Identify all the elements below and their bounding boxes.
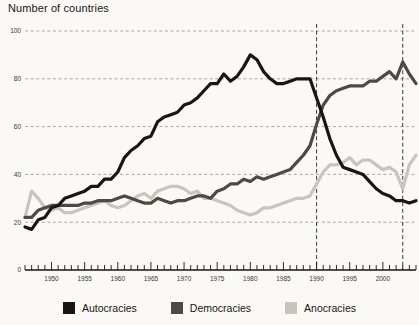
svg-text:80: 80 <box>14 75 22 82</box>
svg-text:60: 60 <box>14 123 22 130</box>
chart-legend: Autocracies Democracies Anocracies <box>0 297 419 319</box>
y-axis-tick-labels: 020406080100 <box>10 27 21 273</box>
svg-text:1955: 1955 <box>77 275 92 282</box>
svg-text:1990: 1990 <box>309 275 324 282</box>
svg-text:100: 100 <box>10 27 21 34</box>
x-axis-tick-labels: 1950195519601965197019751980198519901995… <box>44 275 390 282</box>
svg-text:1950: 1950 <box>44 275 59 282</box>
legend-item-anocracies[interactable]: Anocracies <box>285 302 356 314</box>
svg-text:1970: 1970 <box>177 275 192 282</box>
svg-text:1975: 1975 <box>210 275 225 282</box>
svg-text:0: 0 <box>17 266 21 273</box>
legend-item-autocracies[interactable]: Autocracies <box>63 302 137 314</box>
legend-swatch-anocracies <box>285 302 297 314</box>
svg-text:40: 40 <box>14 171 22 178</box>
legend-label-autocracies: Autocracies <box>82 302 137 314</box>
legend-swatch-democracies <box>171 302 183 314</box>
chart-container: Number of countries 020406080100 1950195… <box>0 0 419 325</box>
svg-text:1985: 1985 <box>276 275 291 282</box>
gridlines-group <box>25 31 416 222</box>
legend-label-democracies: Democracies <box>190 302 251 314</box>
data-series-group <box>25 55 416 229</box>
svg-text:1980: 1980 <box>243 275 258 282</box>
svg-text:1960: 1960 <box>111 275 126 282</box>
annotation-vlines-group <box>317 24 403 270</box>
svg-text:20: 20 <box>14 219 22 226</box>
chart-plot-area: 020406080100 195019551960196519701975198… <box>0 0 419 325</box>
svg-text:1965: 1965 <box>144 275 159 282</box>
svg-text:2000: 2000 <box>376 275 391 282</box>
x-axis <box>25 262 416 270</box>
svg-text:1995: 1995 <box>342 275 357 282</box>
legend-item-democracies[interactable]: Democracies <box>171 302 251 314</box>
legend-swatch-autocracies <box>63 302 75 314</box>
legend-label-anocracies: Anocracies <box>304 302 356 314</box>
